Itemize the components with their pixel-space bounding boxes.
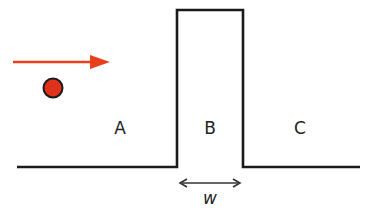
barrier-width-label: w [203, 190, 217, 207]
region-label-a: A [114, 120, 126, 137]
barrier-diagram [0, 0, 373, 217]
particle-ball-icon [44, 79, 63, 98]
region-label-b: B [204, 120, 216, 137]
potential-barrier-outline [17, 10, 360, 167]
incident-direction-arrow-icon [13, 55, 110, 69]
region-label-c: C [294, 120, 306, 137]
width-double-arrow-icon [180, 179, 240, 187]
